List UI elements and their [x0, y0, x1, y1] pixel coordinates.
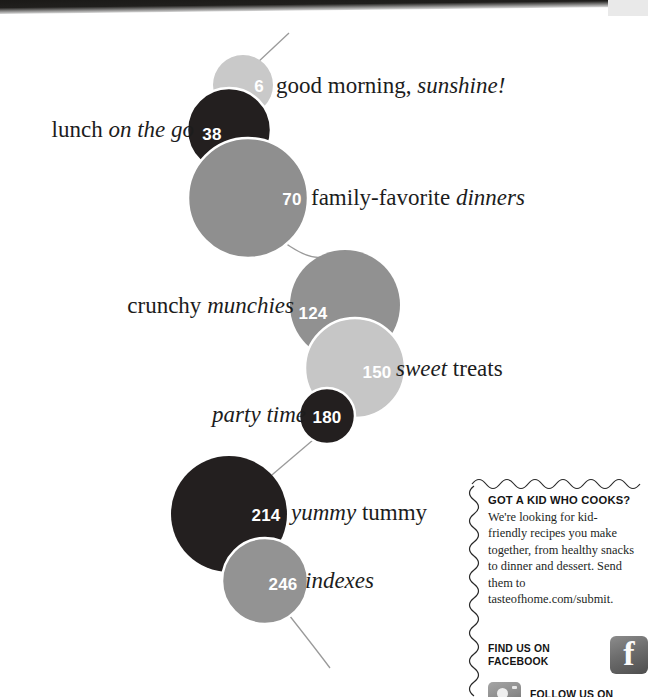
bubble-number-214: 214	[252, 506, 281, 525]
toc-label-pre-124: crunchy	[127, 293, 201, 318]
facebook-row[interactable]: FIND US ON FACEBOOK	[488, 636, 648, 674]
toc-label-italic-150: sweet	[396, 356, 447, 381]
toc-label-pre-70: family-favorite	[311, 185, 450, 210]
bubble-number-38: 38	[202, 125, 221, 144]
toc-label-italic-214: yummy	[291, 500, 356, 525]
bubble-number-246: 246	[269, 575, 298, 594]
toc-label-pre-6: good morning,	[276, 73, 411, 98]
facebook-icon[interactable]	[610, 636, 648, 674]
toc-label-post-214: tummy	[362, 500, 427, 525]
toc-label-italic-6: sunshine!	[417, 73, 505, 98]
toc-label-italic-38: on the go	[108, 117, 194, 142]
bubble-number-124: 124	[299, 304, 328, 323]
instagram-label: FOLLOW US ON	[530, 688, 613, 697]
toc-entry-munchies[interactable]: crunchy munchies	[0, 294, 294, 317]
bubble-number-70: 70	[282, 190, 301, 209]
toc-label-italic-246: indexes	[305, 568, 374, 593]
toc-label-italic-70: dinners	[456, 185, 525, 210]
connector-top	[257, 33, 289, 63]
promo-lead-text: GOT A KID WHO COOKS?	[488, 494, 630, 506]
page-root: 6 38 70 124 150 180 214 246 good morning…	[0, 0, 648, 697]
toc-label-italic-124: munchies	[207, 293, 294, 318]
promo-box: GOT A KID WHO COOKS? We're looking for k…	[466, 470, 648, 697]
promo-text: GOT A KID WHO COOKS? We're looking for k…	[488, 492, 636, 608]
bubble-number-150: 150	[363, 363, 392, 382]
toc-label-post-150: treats	[453, 356, 503, 381]
instagram-icon[interactable]	[488, 682, 521, 697]
toc-label-italic-180: party time	[212, 402, 306, 427]
connector-bottom	[289, 615, 330, 668]
toc-entry-sweet-treats[interactable]: sweet treats	[396, 357, 503, 380]
toc-entry-lunch[interactable]: lunch on the go	[0, 118, 194, 141]
toc-entry-indexes[interactable]: indexes	[305, 569, 374, 592]
facebook-label: FIND US ON FACEBOOK	[488, 642, 601, 668]
toc-entry-yummy-tummy[interactable]: yummy tummy	[291, 501, 427, 524]
toc-label-pre-38: lunch	[52, 117, 103, 142]
bubble-number-180: 180	[313, 408, 342, 427]
promo-body-text: We're looking for kid-friendly recipes y…	[488, 510, 634, 607]
instagram-row[interactable]: FOLLOW US ON	[488, 682, 613, 697]
toc-entry-dinners[interactable]: family-favorite dinners	[311, 186, 525, 209]
toc-entry-party-time[interactable]: party time	[0, 403, 306, 426]
toc-entry-good-morning[interactable]: good morning, sunshine!	[276, 74, 505, 97]
connector-party-yummy	[266, 440, 313, 480]
bubble-number-6: 6	[254, 77, 264, 96]
